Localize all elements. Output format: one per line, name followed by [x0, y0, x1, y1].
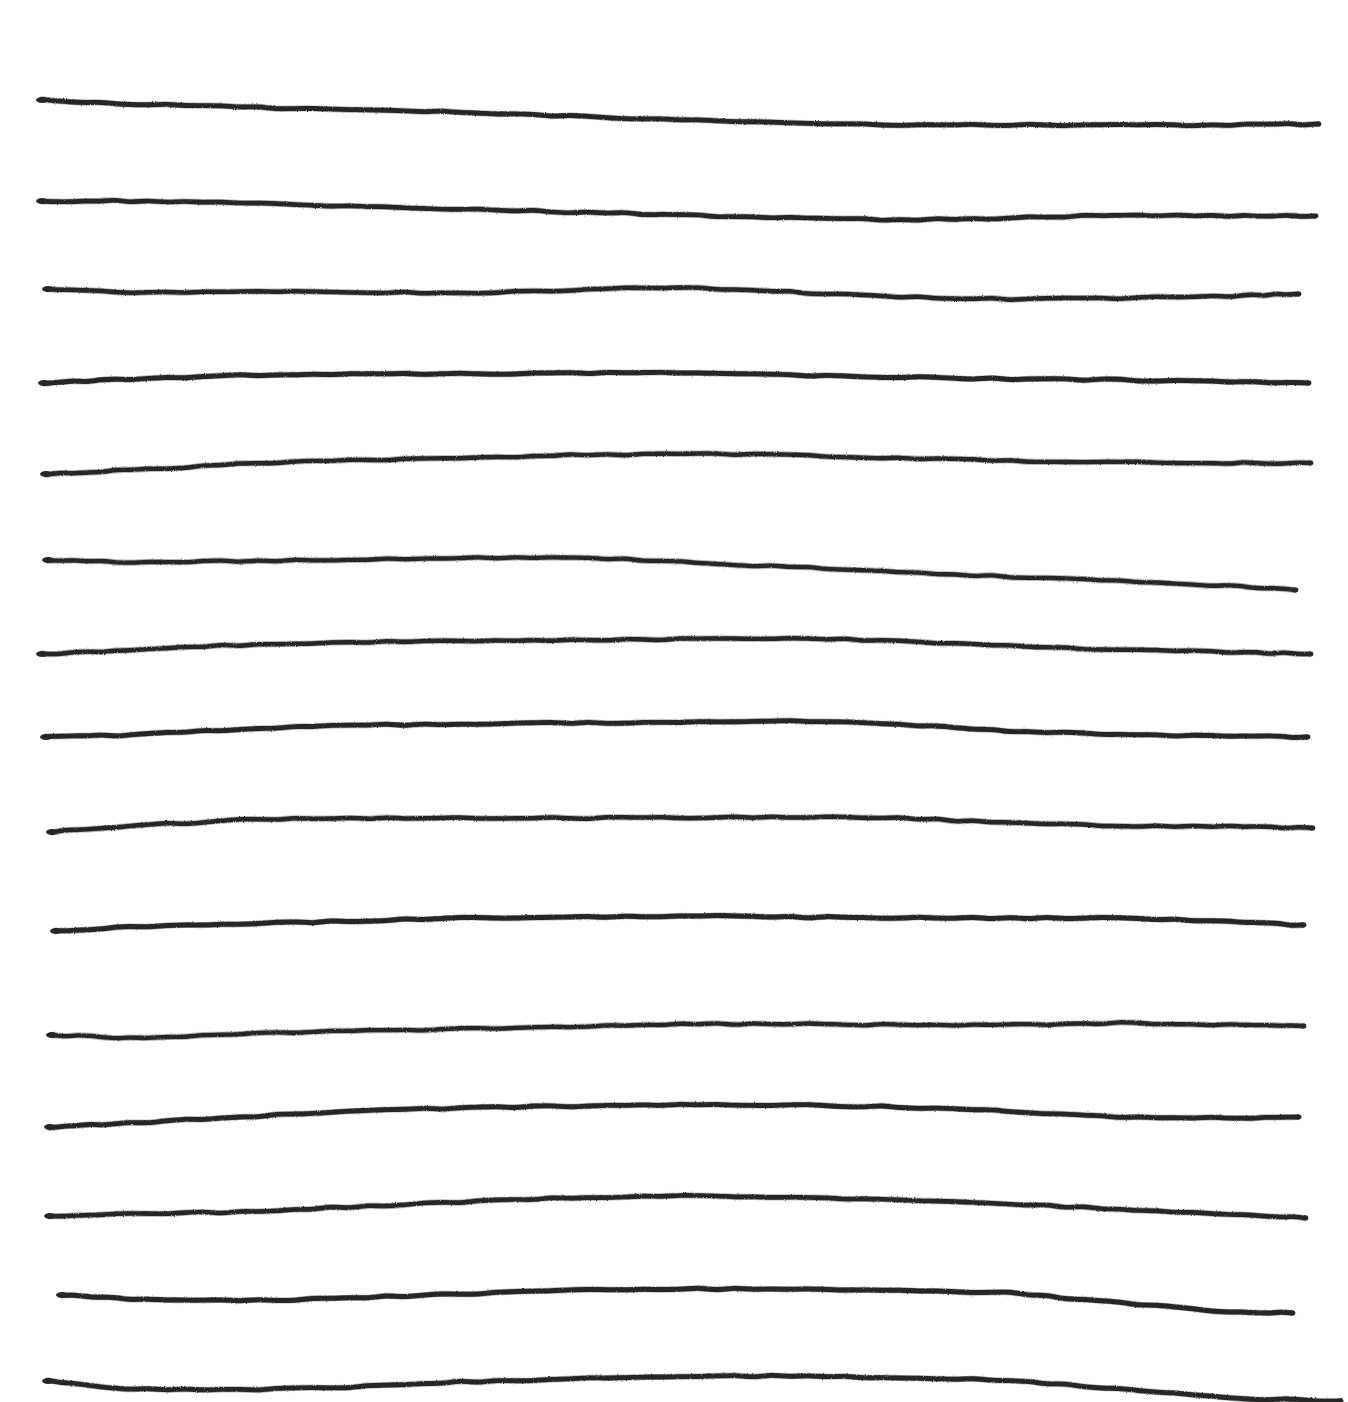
line-start-blob	[44, 1213, 56, 1219]
sketch-svg	[0, 0, 1348, 1402]
line-start-blob	[46, 829, 58, 835]
line-end-blob	[1315, 122, 1322, 127]
line-end-blob	[1312, 214, 1319, 219]
line-start-blob	[42, 1378, 54, 1384]
line-start-blob	[50, 928, 62, 934]
paper-background	[0, 0, 1348, 1402]
line-start-blob	[36, 651, 48, 657]
line-start-blob	[36, 97, 48, 103]
line-end-blob	[1292, 588, 1299, 593]
line-start-blob	[36, 198, 48, 204]
line-end-blob	[1307, 652, 1314, 657]
line-start-blob	[46, 1032, 58, 1038]
line-end-blob	[1302, 1216, 1309, 1221]
line-end-blob	[1309, 826, 1316, 831]
line-end-blob	[1300, 923, 1307, 928]
line-start-blob	[42, 557, 54, 563]
line-end-blob	[1300, 1024, 1307, 1029]
line-end-blob	[1289, 1311, 1296, 1316]
line-end-blob	[1305, 381, 1312, 386]
line-start-blob	[38, 380, 50, 386]
line-start-blob	[44, 1124, 56, 1130]
sketch-canvas	[0, 0, 1348, 1402]
line-end-blob	[1304, 735, 1311, 740]
line-start-blob	[40, 734, 52, 740]
line-end-blob	[1295, 1115, 1302, 1120]
line-end-blob	[1307, 461, 1314, 466]
line-end-blob	[1295, 292, 1302, 297]
line-start-blob	[56, 1292, 68, 1298]
line-start-blob	[40, 471, 52, 477]
line-start-blob	[42, 286, 54, 292]
